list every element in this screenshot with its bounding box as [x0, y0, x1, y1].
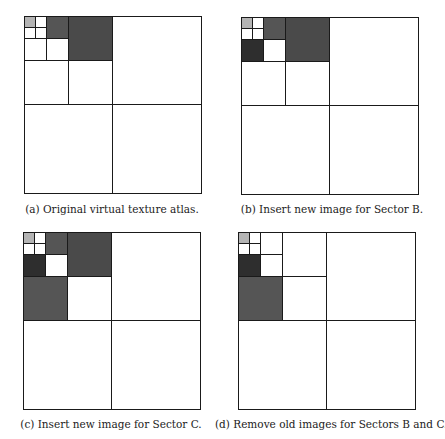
atlas-cell	[112, 104, 202, 194]
atlas-cell	[285, 61, 330, 106]
atlas-c	[23, 232, 200, 409]
atlas-cell	[67, 276, 112, 321]
atlas-cell	[238, 320, 328, 410]
atlas-cell-filled	[68, 16, 113, 61]
atlas-cell	[111, 232, 201, 322]
atlas-cell-filled	[45, 232, 68, 255]
atlas-cell	[329, 17, 419, 107]
atlas-cell	[260, 232, 283, 255]
caption-c: (c) Insert new image for Sector C.	[1, 418, 221, 430]
atlas-cell	[263, 39, 286, 62]
atlas-cell-filled	[238, 254, 261, 277]
atlas-cell-filled	[46, 16, 69, 39]
atlas-cell-filled	[285, 17, 330, 62]
atlas-cell-filled	[238, 276, 283, 321]
atlas-d	[238, 232, 415, 409]
atlas-cell-filled	[241, 39, 264, 62]
atlas-cell	[68, 60, 113, 105]
atlas-cell	[112, 16, 202, 106]
atlas-cell	[23, 320, 113, 410]
atlas-cell	[282, 232, 327, 277]
atlas-a	[24, 16, 201, 193]
atlas-cell	[282, 276, 327, 321]
atlas-cell	[241, 61, 286, 106]
atlas-b	[241, 17, 418, 194]
atlas-cell	[46, 38, 69, 61]
atlas-cell	[326, 232, 416, 322]
atlas-cell	[24, 104, 114, 194]
atlas-cell-filled	[263, 17, 286, 40]
atlas-cell	[260, 254, 283, 277]
atlas-cell-filled	[67, 232, 112, 277]
atlas-cell	[111, 320, 201, 410]
atlas-cell-filled	[23, 254, 46, 277]
caption-a: (a) Original virtual texture atlas.	[2, 203, 222, 215]
atlas-cell-filled	[23, 276, 68, 321]
atlas-cell	[326, 320, 416, 410]
atlas-cell	[241, 105, 331, 195]
caption-d: (d) Remove old images for Sectors B and …	[215, 418, 435, 430]
atlas-cell	[45, 254, 68, 277]
atlas-cell	[24, 60, 69, 105]
atlas-cell	[329, 105, 419, 195]
atlas-cell	[24, 38, 47, 61]
caption-b: (b) Insert new image for Sector B.	[222, 203, 442, 215]
